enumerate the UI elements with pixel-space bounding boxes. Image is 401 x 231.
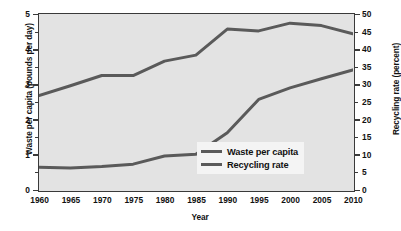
y-axis-right-tick-minor <box>355 32 358 33</box>
y-axis-right-tick-major <box>355 49 360 51</box>
y-axis-right-tick-major <box>355 190 360 192</box>
legend-label-waste-per-capita: Waste per capita <box>227 147 298 157</box>
y-axis-right-tick-label: 20 <box>362 115 388 125</box>
y-axis-right-tick-major <box>355 14 360 16</box>
y-axis-right-tick-major <box>355 119 360 121</box>
y-axis-right-tick-label: 10 <box>362 150 388 160</box>
legend-item-recycling-rate: Recycling rate <box>201 158 298 171</box>
y-axis-left-tick-label: 4 <box>4 44 30 54</box>
y-axis-left-tick-major <box>33 49 38 51</box>
y-axis-left-tick-label: 2 <box>4 115 30 125</box>
y-axis-left-tick-minor <box>35 102 38 103</box>
y-axis-left-tick-major <box>33 154 38 156</box>
y-axis-right-tick-major <box>355 84 360 86</box>
y-axis-right-tick-minor <box>355 102 358 103</box>
y-axis-right-tick-label: 25 <box>362 97 388 107</box>
legend-label-recycling-rate: Recycling rate <box>227 160 288 170</box>
y-axis-right-tick-minor <box>355 67 358 68</box>
y-axis-left-tick-label: 0 <box>4 185 30 195</box>
y-axis-right-title: Recycling rate (percent) <box>391 4 401 174</box>
y-axis-left-tick-minor <box>35 67 38 68</box>
y-axis-left-tick-major <box>33 190 38 192</box>
y-axis-right-tick-minor <box>355 172 358 173</box>
legend-swatch-waste-per-capita <box>201 150 222 153</box>
y-axis-left-tick-major <box>33 119 38 121</box>
y-axis-right-tick-label: 40 <box>362 44 388 54</box>
legend-item-waste-per-capita: Waste per capita <box>201 145 298 158</box>
series-line-recycling-rate <box>39 70 353 168</box>
y-axis-left-tick-label: 3 <box>4 79 30 89</box>
y-axis-right-tick-major <box>355 154 360 156</box>
y-axis-left-tick-major <box>33 14 38 16</box>
plot-lines <box>39 14 353 190</box>
x-axis-tick-label: 2010 <box>333 195 373 205</box>
y-axis-right-tick-label: 30 <box>362 79 388 89</box>
y-axis-right-tick-label: 5 <box>362 167 388 177</box>
y-axis-left-tick-label: 5 <box>4 9 30 19</box>
y-axis-left-tick-minor <box>35 137 38 138</box>
y-axis-right-tick-label: 50 <box>362 9 388 19</box>
y-axis-right-tick-minor <box>355 137 358 138</box>
y-axis-right-tick-label: 45 <box>362 27 388 37</box>
y-axis-right-tick-label: 35 <box>362 62 388 72</box>
y-axis-left-tick-minor <box>35 172 38 173</box>
chart-legend: Waste per capita Recycling rate <box>197 142 304 174</box>
y-axis-left-tick-minor <box>35 32 38 33</box>
y-axis-right-tick-label: 15 <box>362 132 388 142</box>
y-axis-right-tick-label: 0 <box>362 185 388 195</box>
x-axis-title: Year <box>0 212 400 222</box>
y-axis-left-tick-label: 1 <box>4 150 30 160</box>
y-axis-left-tick-major <box>33 84 38 86</box>
legend-swatch-recycling-rate <box>201 163 222 166</box>
